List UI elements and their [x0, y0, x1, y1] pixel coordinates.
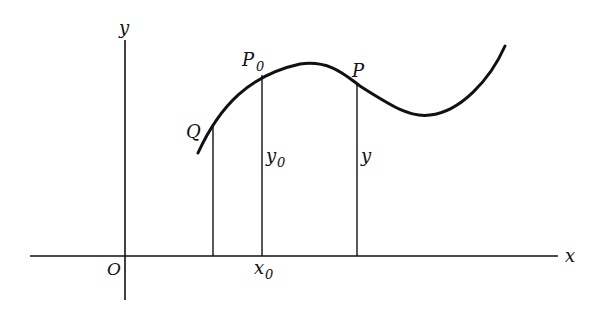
- point-p0-subscript: 0: [256, 59, 264, 74]
- x-axis-label: x: [565, 245, 575, 266]
- point-p-label: P: [351, 60, 365, 81]
- ordinate-y0-subscript: 0: [277, 155, 285, 170]
- diagram-canvas: y x O Q P 0 P y 0 y x 0: [0, 0, 600, 314]
- abscissa-x0-label: x: [254, 257, 264, 278]
- abscissa-x0-subscript: 0: [265, 267, 273, 282]
- ordinate-y-label: y: [360, 145, 372, 166]
- origin-label: O: [107, 259, 121, 279]
- point-q-label: Q: [186, 121, 201, 142]
- y-axis-label: y: [118, 17, 130, 38]
- ordinate-y0-label: y: [265, 145, 277, 166]
- point-p0-label: P: [241, 49, 255, 70]
